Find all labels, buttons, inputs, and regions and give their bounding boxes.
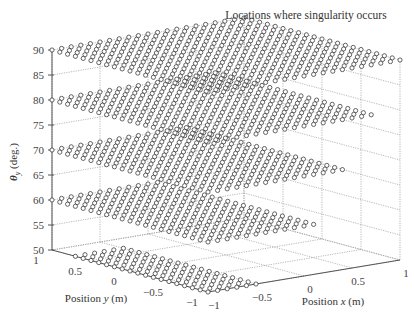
z-tick-label: 75 [33,119,45,131]
chart-title: Locations where singularity occurs [225,9,387,22]
data-point [159,227,163,231]
data-point [97,61,101,65]
data-point [206,190,210,194]
data-point [175,232,179,236]
data-point [89,158,93,162]
data-point [302,74,306,78]
data-point [292,76,296,80]
data-point [254,282,258,286]
data-point [273,129,277,133]
data-point [66,152,70,156]
data-point [105,63,109,67]
data-point [235,235,239,239]
data-point [283,127,287,131]
data-point [105,263,109,267]
x-tick-label: −1 [208,299,220,311]
data-point [151,175,155,179]
data-point [81,106,85,110]
data-point [128,169,132,173]
data-point [73,254,77,258]
data-point [225,187,229,191]
data-point [97,261,101,265]
data-point [190,236,194,240]
data-point [321,171,325,175]
data-point [105,163,109,167]
data-point [190,286,194,290]
data-point [97,211,101,215]
z-tick-label: 60 [33,194,45,206]
data-point [331,169,335,173]
data-point [167,179,171,183]
data-point [50,98,54,102]
data-point [331,119,335,123]
data-point [254,232,258,236]
data-point [283,77,287,81]
data-point [144,123,148,127]
data-point [216,188,220,192]
data-point [159,127,163,131]
data-point [89,58,93,62]
data-point [283,177,287,181]
data-points [50,16,402,294]
data-point [128,69,132,73]
x-tick-label: 0 [307,283,313,295]
data-point [120,117,124,121]
data-point [151,125,155,129]
data-point [58,200,62,204]
data-point [81,156,85,160]
data-point [159,77,163,81]
data-point [112,65,116,69]
data-point [360,114,364,118]
data-point [292,126,296,130]
data-point [73,154,77,158]
z-axis-label: θy (deg.) [7,143,22,181]
data-point [128,219,132,223]
x-tick-label: −0.5 [252,291,272,303]
data-point [167,229,171,233]
data-point [89,108,93,112]
data-point [283,227,287,231]
data-point [112,265,116,269]
z-tick-label: 65 [33,169,45,181]
data-point [302,224,306,228]
data-point [175,182,179,186]
scatter3d-chart: 50556065707580859010.50−0.5−1−1−0.500.51… [0,0,414,323]
x-tick-label: 0.5 [351,275,365,287]
data-point [302,174,306,178]
data-point [73,54,77,58]
data-point [244,184,248,188]
data-point [58,50,62,54]
data-point [264,130,268,134]
data-point [112,165,116,169]
data-point [235,285,239,289]
data-point [235,185,239,189]
data-point [120,267,124,271]
data-point [350,116,354,120]
data-point [136,171,140,175]
data-point [198,238,202,242]
data-point [235,135,239,139]
data-point [58,100,62,104]
z-tick-label: 80 [33,94,45,106]
data-point [66,202,70,206]
y-tick-label: 0.5 [68,265,82,277]
z-tick-label: 90 [33,44,45,56]
data-point [206,240,210,244]
data-point [331,69,335,73]
data-point [321,121,325,125]
data-point [379,61,383,65]
data-point [128,119,132,123]
data-point [244,234,248,238]
data-point [273,229,277,233]
data-point [302,124,306,128]
data-point [159,177,163,181]
y-axis-label: Position y (m) [65,292,128,305]
data-point [97,111,101,115]
data-point [89,258,93,262]
data-point [225,287,229,291]
data-point [340,118,344,122]
data-point [66,52,70,56]
data-point [136,271,140,275]
data-point [81,56,85,60]
data-point [183,184,187,188]
